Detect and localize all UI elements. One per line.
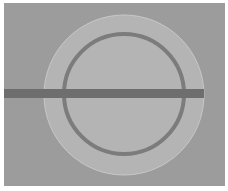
ring-resonator-diagram: [0, 0, 228, 191]
bus-waveguide: [4, 89, 204, 98]
